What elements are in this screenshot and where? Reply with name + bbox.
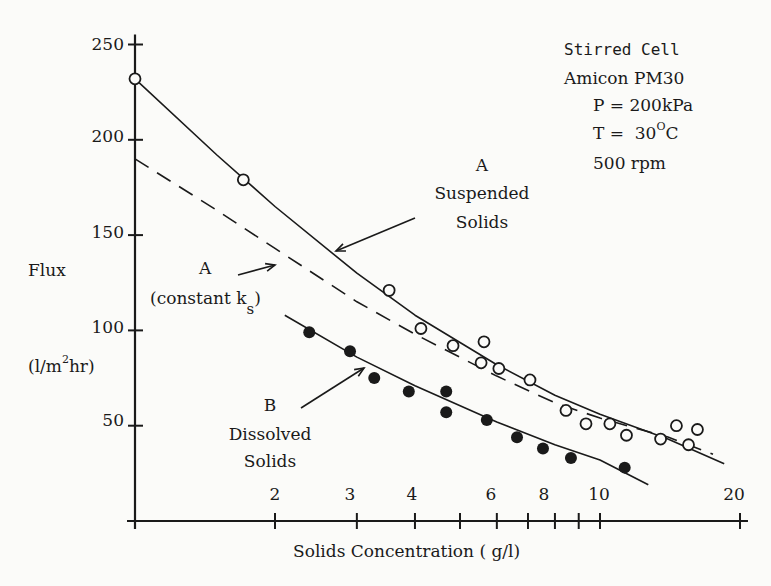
x-tick-label: 3 [335, 486, 365, 503]
annotation-constant-k-label: (constant ks) [150, 290, 261, 309]
open-circle-marker [384, 285, 395, 296]
open-circle-marker [478, 336, 489, 347]
open-circle-marker [683, 439, 694, 450]
condition-temperature: T = 30OC [593, 125, 678, 142]
y-axis-unit: (l/m2hr) [28, 358, 95, 375]
y-tick-label: 150 [74, 224, 124, 241]
x-axis-title: Solids Concentration ( g/l) [293, 543, 520, 560]
x-tick-label: 10 [584, 486, 614, 503]
open-circle-marker [415, 323, 426, 334]
open-circle-marker [580, 418, 591, 429]
fit-curve [285, 315, 649, 485]
open-circle-marker [524, 374, 535, 385]
annotation-suspended-label2: Solids [412, 214, 552, 231]
annotation-suspended-label: Suspended [412, 185, 552, 202]
condition-pressure: P = 200kPa [593, 97, 693, 114]
open-circle-marker [655, 434, 666, 445]
open-circle-marker [671, 420, 682, 431]
open-circle-marker [692, 424, 703, 435]
filled-circle-marker [368, 372, 380, 384]
open-circle-marker [130, 73, 141, 84]
filled-circle-marker [619, 462, 631, 474]
filled-circle-marker [565, 452, 577, 464]
y-tick-label: 200 [74, 128, 124, 145]
y-tick-label: 100 [74, 319, 124, 336]
filled-circle-marker [440, 406, 452, 418]
filled-circle-marker [403, 385, 415, 397]
annotation-suspended-letter: A [412, 157, 552, 174]
annotation-dissolved-label: Dissolved [215, 426, 325, 443]
open-circle-marker [238, 174, 249, 185]
filled-circle-marker [440, 385, 452, 397]
annotation-dissolved-label2: Solids [215, 453, 325, 470]
annotation-constant-k-letter: A [199, 260, 211, 277]
annotation-dissolved-letter: B [215, 397, 325, 414]
arrow-dissolved-head [354, 368, 364, 376]
x-tick-label: 8 [529, 486, 559, 503]
x-tick-label: 2 [260, 486, 290, 503]
condition-membrane: Amicon PM30 [564, 70, 684, 87]
open-circle-marker [476, 357, 487, 368]
x-tick-label: 20 [719, 486, 749, 503]
condition-apparatus: Stirred Cell [564, 42, 680, 58]
filled-circle-marker [511, 431, 523, 443]
arrow-suspended [336, 218, 415, 251]
y-tick-label: 50 [74, 412, 124, 429]
filled-circle-marker [344, 345, 356, 357]
filled-circle-marker [537, 443, 549, 455]
open-circle-marker [560, 405, 571, 416]
filled-circle-marker [303, 326, 315, 338]
condition-stir-speed: 500 rpm [593, 155, 666, 172]
filled-circle-marker [481, 414, 493, 426]
open-circle-marker [621, 430, 632, 441]
x-tick-label: 4 [397, 486, 427, 503]
x-tick-label: 6 [476, 486, 506, 503]
open-circle-marker [604, 418, 615, 429]
open-circle-marker [493, 363, 504, 374]
y-tick-label: 250 [74, 36, 124, 53]
y-axis-title: Flux [28, 262, 66, 279]
open-circle-marker [448, 340, 459, 351]
